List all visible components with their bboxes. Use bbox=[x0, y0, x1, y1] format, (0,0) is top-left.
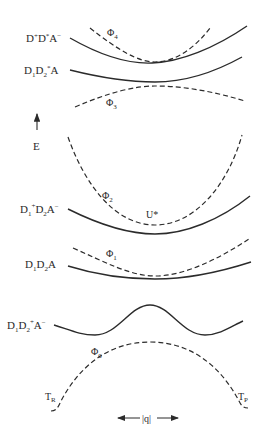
label-phi2: Φ2 bbox=[102, 190, 113, 204]
label-d-plus-d-star-a-minus: D+D*A− bbox=[26, 32, 61, 44]
energy-level-diagram: D+D*A− Φ4 D1D2*A Φ3 E Φ2 D1+D2A− U* Φ1 D… bbox=[0, 0, 262, 433]
curve-phi3 bbox=[75, 86, 245, 107]
label-d1-d2-plus-a-minus: D1D2+A− bbox=[7, 318, 46, 334]
label-phi1: Φ1 bbox=[106, 248, 117, 262]
label-t-r: TR bbox=[45, 391, 56, 404]
label-d1-plus-d2-a-minus: D1+D2A− bbox=[20, 202, 59, 218]
curve-phi0 bbox=[51, 342, 248, 411]
curve-d1-d2-plus-a-minus bbox=[54, 305, 243, 335]
energy-axis-label: E bbox=[33, 140, 40, 152]
label-phi4: Φ4 bbox=[107, 27, 118, 41]
curve-d1-d2-star-a bbox=[70, 57, 242, 82]
curve-d1-plus-d2-a-minus bbox=[68, 196, 250, 234]
label-d1-d2-star-a: D1D2*A bbox=[24, 64, 58, 79]
curve-d-plus-d-star-a-minus bbox=[70, 26, 247, 63]
label-d1-d2-a: D1D2A bbox=[25, 258, 56, 273]
label-phi0: Φ0 bbox=[91, 346, 102, 360]
label-u-star: U* bbox=[146, 209, 158, 220]
label-phi3: Φ3 bbox=[106, 97, 117, 111]
coordinate-axis-label: |q| bbox=[142, 413, 151, 424]
